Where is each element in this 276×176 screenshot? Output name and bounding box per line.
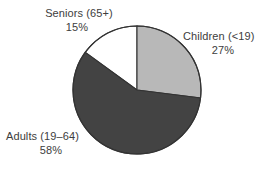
- pie-label-children: Children (<19) 27%: [183, 30, 275, 57]
- pie-label-children-name: Children (<19): [183, 30, 254, 42]
- pie-label-seniors-value: 15%: [30, 21, 128, 35]
- pie-label-seniors: Seniors (65+) 15%: [30, 7, 128, 34]
- pie-label-adults-value: 58%: [6, 144, 102, 158]
- pie-label-adults: Adults (19–64) 58%: [6, 130, 102, 157]
- pie-label-children-value: 27%: [183, 44, 275, 58]
- pie-label-seniors-name: Seniors (65+): [45, 7, 113, 19]
- pie-chart-figure: Seniors (65+) 15% Children (<19) 27% Adu…: [0, 0, 276, 176]
- pie-label-adults-name: Adults (19–64): [6, 130, 79, 142]
